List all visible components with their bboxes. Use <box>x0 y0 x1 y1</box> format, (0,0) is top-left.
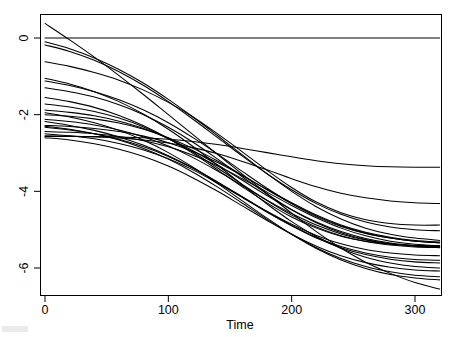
chart-svg: 0-2-4-6 0100200300 Time <box>0 0 460 337</box>
curve-07 <box>45 88 440 247</box>
y-tick-label-0: 0 <box>17 34 31 41</box>
curve-03 <box>45 42 440 241</box>
x-tick-label-0: 0 <box>42 303 49 317</box>
figure-canvas: 0-2-4-6 0100200300 Time <box>0 0 460 337</box>
corner-artifact <box>2 326 28 332</box>
y-axis-tick-labels: 0-2-4-6 <box>17 34 31 273</box>
x-tick-label-200: 200 <box>281 303 302 317</box>
x-tick-label-100: 100 <box>158 303 179 317</box>
curve-13 <box>45 125 440 242</box>
curve-12 <box>45 119 440 246</box>
x-axis-title: Time <box>226 318 253 332</box>
data-lines-group <box>45 23 440 289</box>
y-axis-ticks <box>34 38 41 268</box>
y-tick-label--2: -2 <box>17 109 31 120</box>
x-axis-ticks <box>45 296 415 303</box>
x-axis-tick-labels: 0100200300 <box>42 303 426 317</box>
x-tick-label-300: 300 <box>405 303 426 317</box>
y-tick-label--4: -4 <box>17 186 31 197</box>
y-tick-label--6: -6 <box>17 262 31 273</box>
curve-22 <box>45 138 440 271</box>
